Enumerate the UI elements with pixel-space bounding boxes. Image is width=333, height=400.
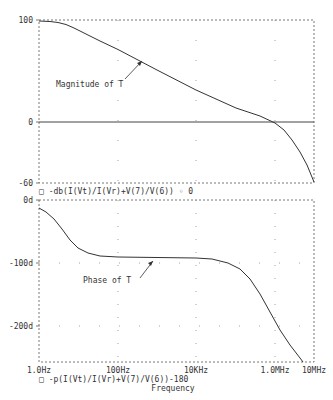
phase-legend: □ -p(I(Vt)/I(Vr)+V(7)/V(6))-180	[39, 375, 188, 384]
y-label-100: 100	[19, 16, 34, 25]
bode-plot: 100 0 -60 Magnitude of T □ -db(I(Vt)/I(V…	[0, 0, 333, 400]
y-label-0d: 0d	[23, 196, 33, 205]
x-axis-title: Frequency	[151, 384, 195, 393]
magnitude-grid	[118, 20, 275, 183]
magnitude-annotation: Magnitude of T	[56, 80, 124, 89]
x-label-10mhz: 10MHz	[302, 366, 326, 375]
y-label-minus-60: -60	[19, 179, 34, 188]
phase-annotation: Phase of T	[83, 276, 131, 285]
phase-plot-frame	[39, 200, 314, 362]
phase-plot: 0d -100d -200d Phase of T	[9, 196, 314, 362]
x-label-100hz: 100Hz	[106, 366, 130, 375]
y-label-0: 0	[28, 118, 33, 127]
arrowhead-icon	[148, 261, 153, 266]
phase-curve	[39, 208, 303, 362]
magnitude-legend: □ -db(I(Vt)/I(Vr)+V(7)/V(6)) ◦ 0	[39, 187, 193, 196]
x-label-1hz: 1.0Hz	[27, 366, 51, 375]
magnitude-plot-frame	[39, 20, 314, 183]
y-label-minus-100d: -100d	[9, 259, 33, 268]
x-label-1mhz: 1.0MHz	[261, 366, 290, 375]
phase-grid	[39, 200, 314, 362]
magnitude-plot: 100 0 -60 Magnitude of T	[19, 16, 314, 188]
magnitude-curve	[39, 21, 314, 182]
x-label-10khz: 10KHz	[184, 366, 208, 375]
y-label-minus-200d: -200d	[9, 322, 33, 331]
